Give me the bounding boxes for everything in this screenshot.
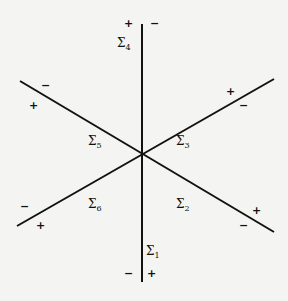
plus-sign-label: + [226, 86, 235, 97]
region-label-sigma2: Σ2 [176, 198, 190, 215]
region-label-sigma4: Σ4 [117, 37, 131, 54]
plus-sign-label: + [124, 18, 133, 29]
region-label-sigma5: Σ5 [88, 135, 102, 152]
region-label-sigma6: Σ6 [88, 198, 102, 215]
minus-sign-label: − [41, 80, 50, 91]
minus-sign-label: − [124, 268, 133, 279]
plus-sign-label: + [252, 205, 261, 216]
minus-sign-label: − [239, 100, 248, 111]
plus-sign-label: + [36, 220, 45, 231]
plus-sign-label: + [147, 268, 156, 279]
minus-sign-label: − [150, 18, 159, 29]
plus-sign-label: + [29, 100, 38, 111]
minus-sign-label: − [20, 201, 29, 212]
region-label-sigma3: Σ3 [176, 135, 190, 152]
region-label-sigma1: Σ1 [146, 245, 160, 262]
diagonal-down-line [20, 81, 274, 232]
minus-sign-label: − [239, 220, 248, 231]
diagram-canvas [0, 0, 288, 301]
